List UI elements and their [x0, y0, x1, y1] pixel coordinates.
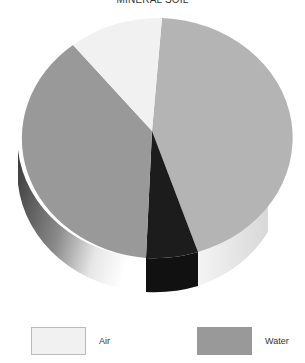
- legend-swatch-air: [31, 327, 86, 355]
- legend-label-water: Water: [265, 336, 289, 346]
- legend-swatch-water: [197, 327, 252, 355]
- legend-item-air: Air: [31, 327, 110, 355]
- pie-chart: [0, 0, 305, 310]
- legend-item-water: Water: [197, 327, 289, 355]
- legend-label-air: Air: [99, 336, 110, 346]
